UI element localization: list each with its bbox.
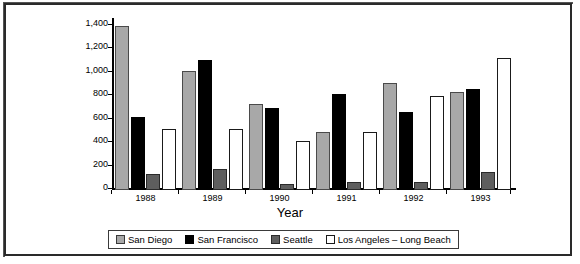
bar-san-diego-1990 (249, 104, 263, 190)
bar-seattle-1991 (347, 182, 361, 190)
swatch-san-diego-icon (116, 235, 125, 244)
legend-item-san-diego[interactable]: San Diego (116, 235, 172, 245)
bar-seattle-1989 (213, 169, 227, 190)
legend-item-seattle[interactable]: Seattle (271, 235, 313, 245)
bar-seattle-1992 (414, 182, 428, 190)
bar-san-francisco-1988 (131, 117, 145, 190)
bar-san-diego-1992 (383, 83, 397, 190)
legend-item-los-angeles-long-beach[interactable]: Los Angeles – Long Beach (326, 235, 451, 245)
bar-san-diego-1989 (182, 71, 196, 190)
x-axis-tick-mark (178, 190, 179, 194)
x-axis-title: Year (0, 205, 580, 220)
legend: San DiegoSan FranciscoSeattleLos Angeles… (108, 230, 459, 249)
x-axis-tick-mark (111, 190, 112, 194)
chart-screenshot: 02004006008001,0001,2001,400 19881989199… (0, 0, 580, 264)
bars-layer (0, 0, 580, 264)
legend-label: San Francisco (197, 235, 258, 245)
plot-area: 02004006008001,0001,2001,400 19881989199… (0, 0, 580, 264)
x-axis-tick-mark (245, 190, 246, 194)
x-axis-tick-label: 1992 (394, 193, 434, 203)
swatch-seattle-icon (271, 235, 280, 244)
bar-san-diego-1991 (316, 132, 330, 190)
bar-seattle-1993 (481, 172, 495, 190)
x-axis-tick-label: 1990 (260, 193, 300, 203)
x-axis-tick-mark (312, 190, 313, 194)
bar-los-angeles-long-beach-1988 (162, 129, 176, 190)
bar-los-angeles-long-beach-1990 (296, 141, 310, 190)
bar-san-francisco-1993 (466, 89, 480, 190)
bar-los-angeles-long-beach-1993 (497, 58, 511, 190)
bar-los-angeles-long-beach-1989 (229, 129, 243, 190)
swatch-los-angeles-long-beach-icon (326, 235, 335, 244)
x-axis-tick-mark (379, 190, 380, 194)
bar-seattle-1988 (146, 174, 160, 190)
bar-seattle-1990 (280, 184, 294, 190)
bar-san-francisco-1992 (399, 112, 413, 190)
legend-label: San Diego (128, 235, 172, 245)
bar-los-angeles-long-beach-1991 (363, 132, 377, 190)
legend-label: Seattle (283, 235, 313, 245)
legend-item-san-francisco[interactable]: San Francisco (185, 235, 258, 245)
x-axis-tick-label: 1988 (126, 193, 166, 203)
swatch-san-francisco-icon (185, 235, 194, 244)
bar-san-francisco-1990 (265, 108, 279, 190)
x-axis-tick-label: 1989 (193, 193, 233, 203)
bar-los-angeles-long-beach-1992 (430, 96, 444, 190)
legend-label: Los Angeles – Long Beach (338, 235, 451, 245)
bar-san-diego-1993 (450, 92, 464, 190)
x-axis-tick-label: 1993 (461, 193, 501, 203)
x-axis-tick-mark (446, 190, 447, 194)
bar-san-francisco-1991 (332, 94, 346, 190)
x-axis-tick-mark (510, 190, 511, 194)
bar-san-diego-1988 (115, 26, 129, 191)
x-axis-tick-label: 1991 (327, 193, 367, 203)
bar-san-francisco-1989 (198, 60, 212, 190)
